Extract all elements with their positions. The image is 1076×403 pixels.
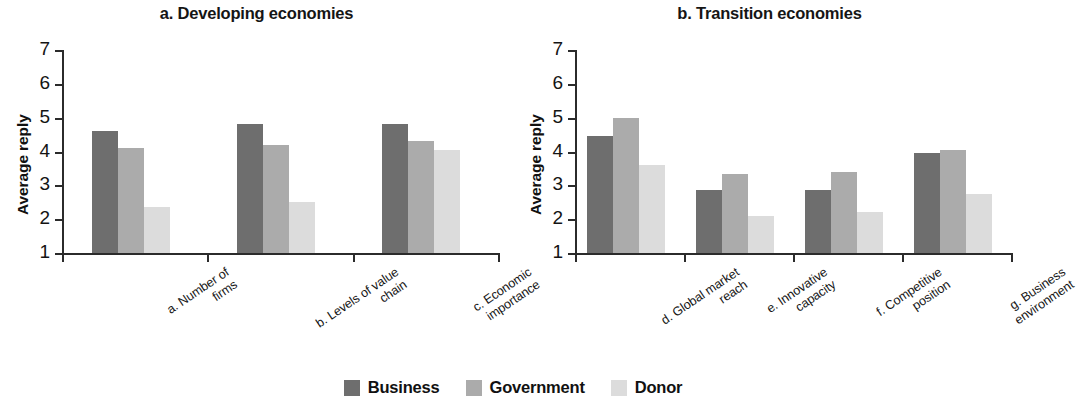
bar-b-donor xyxy=(289,202,315,253)
legend-swatch-icon-government xyxy=(466,380,482,396)
category-label-d: d. Global marketreach xyxy=(658,265,750,340)
x-tick-end xyxy=(1011,253,1013,262)
legend-label: Business xyxy=(368,378,440,397)
x-tick-a xyxy=(62,253,64,262)
chart-legend: BusinessGovernmentDonor xyxy=(0,378,1026,397)
bar-g-government xyxy=(940,150,966,253)
bar-a-government xyxy=(118,148,144,253)
bar-e-donor xyxy=(748,216,774,253)
panel-b-y-axis xyxy=(575,50,577,255)
bar-a-donor xyxy=(144,207,170,253)
bar-f-government xyxy=(831,172,857,253)
x-tick-d xyxy=(575,253,577,262)
y-tick-5 xyxy=(55,118,62,120)
legend-item-business[interactable]: Business xyxy=(344,378,440,397)
y-tick-7 xyxy=(55,50,62,52)
bar-f-business xyxy=(805,190,831,253)
panel-developing-economies: a. Developing economies Average reply 12… xyxy=(0,0,513,370)
y-tick-1 xyxy=(55,253,62,255)
y-tick-label-2: 2 xyxy=(541,207,563,229)
legend-swatch-icon-business xyxy=(344,380,360,396)
panel-a-title: a. Developing economies xyxy=(0,4,513,23)
legend-item-donor[interactable]: Donor xyxy=(611,378,683,397)
legend-item-government[interactable]: Government xyxy=(466,378,585,397)
y-tick-4 xyxy=(568,152,575,154)
bar-e-business xyxy=(696,190,722,253)
y-tick-label-5: 5 xyxy=(28,106,50,128)
y-tick-label-3: 3 xyxy=(541,173,563,195)
bar-b-business xyxy=(237,124,263,253)
category-label-e: e. Innovativecapacity xyxy=(764,265,839,329)
bar-a-business xyxy=(92,131,118,253)
panel-a-y-axis xyxy=(62,50,64,255)
x-tick-e xyxy=(684,253,686,262)
category-label-f: f. Competitiveposition xyxy=(874,265,953,332)
y-tick-label-3: 3 xyxy=(28,173,50,195)
y-tick-7 xyxy=(568,50,575,52)
bar-d-donor xyxy=(639,165,665,253)
y-tick-5 xyxy=(568,118,575,120)
x-tick-end xyxy=(498,253,500,262)
category-label-g: g. Businessenvironment xyxy=(985,265,1076,340)
y-tick-label-6: 6 xyxy=(541,72,563,94)
bar-g-donor xyxy=(966,194,992,253)
panel-b-y-axis-title: Average reply xyxy=(527,114,545,215)
bar-f-donor xyxy=(857,212,883,253)
x-tick-b xyxy=(207,253,209,262)
bar-c-donor xyxy=(434,150,460,253)
y-tick-3 xyxy=(55,185,62,187)
panel-b-plot-area: 1234567 xyxy=(575,50,1011,255)
category-label-b: b. Levels of valuechain xyxy=(314,265,410,343)
y-tick-6 xyxy=(568,84,575,86)
panel-b-title: b. Transition economies xyxy=(513,4,1026,23)
y-tick-label-5: 5 xyxy=(541,106,563,128)
y-tick-4 xyxy=(55,152,62,154)
bar-e-government xyxy=(722,174,748,254)
category-label-a: a. Number offirms xyxy=(164,265,240,330)
y-tick-2 xyxy=(568,219,575,221)
legend-label: Donor xyxy=(635,378,683,397)
y-tick-1 xyxy=(568,253,575,255)
bar-d-government xyxy=(613,118,639,253)
x-tick-f xyxy=(793,253,795,262)
panel-a-x-axis xyxy=(62,253,498,255)
y-tick-3 xyxy=(568,185,575,187)
legend-label: Government xyxy=(490,378,585,397)
x-tick-c xyxy=(353,253,355,262)
bar-b-government xyxy=(263,145,289,253)
panel-a-plot-area: 1234567 xyxy=(62,50,498,255)
y-tick-6 xyxy=(55,84,62,86)
y-tick-label-1: 1 xyxy=(541,241,563,263)
bar-g-business xyxy=(914,153,940,253)
x-tick-g xyxy=(902,253,904,262)
y-tick-label-7: 7 xyxy=(28,38,50,60)
bar-c-government xyxy=(408,141,434,253)
y-tick-2 xyxy=(55,219,62,221)
panel-transition-economies: b. Transition economies Average reply 12… xyxy=(513,0,1026,370)
y-tick-label-4: 4 xyxy=(28,139,50,161)
panel-a-y-axis-title: Average reply xyxy=(14,114,32,215)
bar-c-business xyxy=(382,124,408,253)
y-tick-label-6: 6 xyxy=(28,72,50,94)
legend-swatch-icon-donor xyxy=(611,380,627,396)
y-tick-label-7: 7 xyxy=(541,38,563,60)
y-tick-label-2: 2 xyxy=(28,207,50,229)
bar-d-business xyxy=(587,136,613,253)
y-tick-label-4: 4 xyxy=(541,139,563,161)
y-tick-label-1: 1 xyxy=(28,241,50,263)
